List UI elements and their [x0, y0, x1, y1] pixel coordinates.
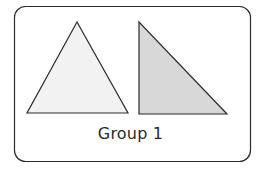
group-caption: Group 1	[0, 124, 261, 143]
group-diagram: Group 1	[0, 0, 261, 171]
